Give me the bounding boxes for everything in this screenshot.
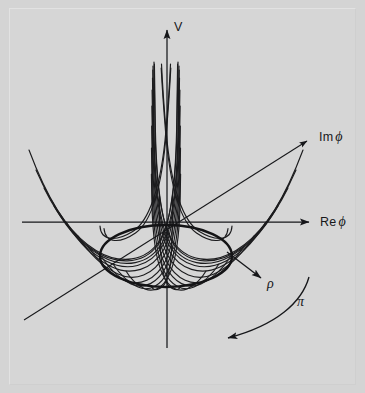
- axis-label-im-phi: Imϕ: [319, 130, 343, 144]
- imaginary-axis-line: [24, 141, 307, 320]
- annotation-label-rho: ρ: [267, 277, 274, 291]
- axis-label-v: V: [174, 21, 183, 34]
- potential-plot: [0, 0, 365, 393]
- phi-glyph-im: ϕ: [333, 129, 342, 144]
- axis-label-im-text: Im: [319, 130, 333, 144]
- figure-container: V Imϕ Reϕ ρ π: [0, 0, 365, 393]
- axis-label-re-text: Re: [320, 215, 336, 229]
- phi-glyph-re: ϕ: [336, 214, 345, 229]
- rho-arrow: [227, 252, 261, 278]
- annotation-label-pi: π: [297, 295, 304, 309]
- potential-surface-curves: [29, 62, 303, 290]
- axis-label-re-phi: Reϕ: [320, 215, 346, 229]
